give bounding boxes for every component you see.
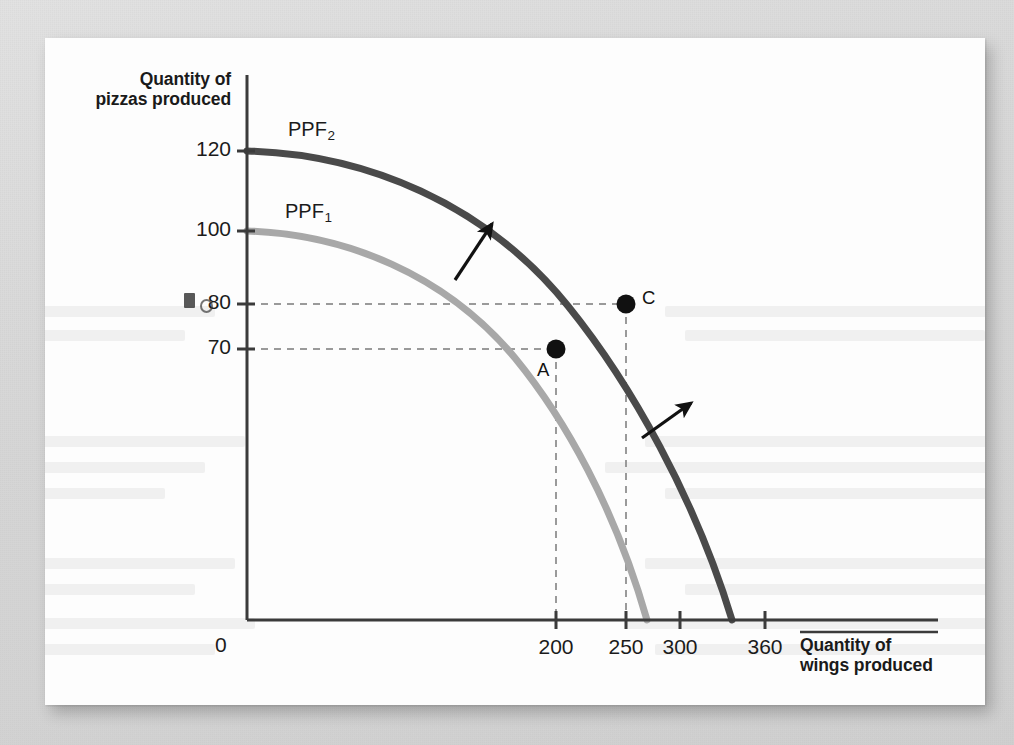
origin-label: 0 (215, 633, 227, 657)
point-label-a: A (537, 360, 549, 381)
shift-arrow-upper (455, 224, 492, 280)
y-axis-title: Quantity of pizzas produced (61, 70, 231, 109)
ppf2-label-sub: 2 (327, 128, 335, 143)
y-axis-title-line2: pizzas produced (61, 90, 231, 110)
x-tick-label-360: 360 (725, 635, 805, 659)
ppf1-curve (247, 231, 647, 620)
y-tick-label-120: 120 (153, 137, 231, 161)
data-point-a (547, 340, 566, 359)
x-tick-label-200: 200 (516, 635, 596, 659)
y-tick-label-100: 100 (153, 217, 231, 241)
guide-lines-point-a (248, 349, 556, 620)
x-tick-label-300: 300 (640, 635, 720, 659)
x-axis-title-line2: wings produced (800, 656, 980, 676)
x-axis-title: Quantity of wings produced (800, 636, 980, 675)
x-axis-title-line1: Quantity of (800, 636, 980, 656)
y-axis-title-line1: Quantity of (61, 70, 231, 90)
ppf2-label-text: PPF (288, 118, 327, 140)
ppf1-label: PPF1 (285, 200, 331, 222)
ppf1-label-text: PPF (285, 200, 324, 222)
figure-paper-panel: Quantity of pizzas produced Quantity of … (45, 38, 985, 705)
guide-lines-point-c (248, 304, 626, 620)
y-tick-label-80: 80 (183, 290, 231, 314)
ppf2-label: PPF2 (288, 118, 334, 140)
data-point-c (617, 295, 636, 314)
ppf-chart: Quantity of pizzas produced Quantity of … (45, 38, 985, 705)
point-label-c: C (642, 288, 655, 309)
ppf1-label-sub: 1 (324, 210, 332, 225)
y-tick-label-70: 70 (183, 335, 231, 359)
